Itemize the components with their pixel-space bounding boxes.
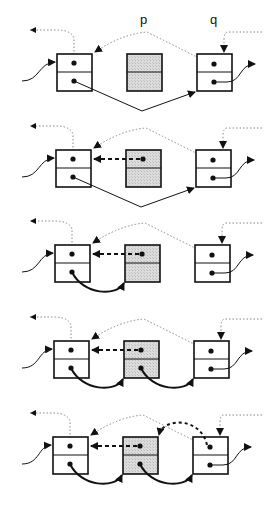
linked-list-diagram xyxy=(0,0,274,512)
node-right-q xyxy=(193,437,228,474)
pointer-dot xyxy=(71,60,76,65)
incoming-link xyxy=(22,158,54,177)
arrowhead-icon xyxy=(30,27,36,33)
right-prev-link xyxy=(220,415,262,435)
node-left xyxy=(55,245,90,282)
right-prev-link xyxy=(221,319,262,339)
arrowhead-icon xyxy=(30,218,36,224)
step-5 xyxy=(22,410,262,484)
pointer-dot xyxy=(69,251,74,256)
node-left xyxy=(57,54,92,91)
incoming-link xyxy=(22,445,51,464)
step-2 xyxy=(22,123,262,207)
node-left xyxy=(56,150,91,187)
pointer-dot xyxy=(210,157,215,162)
node-right-q xyxy=(194,341,229,378)
right-prev-link xyxy=(223,128,262,148)
arrowhead-icon xyxy=(30,123,36,129)
right-prev-link xyxy=(222,223,262,243)
node-left xyxy=(53,437,88,474)
node-new-p xyxy=(125,245,160,282)
pointer-dot xyxy=(68,347,73,352)
node-right-q xyxy=(197,54,232,91)
pointer-dot xyxy=(208,348,213,353)
node-new-p xyxy=(126,150,161,187)
pointer-dot xyxy=(139,251,144,256)
node-right-q xyxy=(196,150,231,187)
node-new-p xyxy=(127,54,162,91)
pointer-dot xyxy=(207,444,212,449)
step-3 xyxy=(22,218,262,292)
incoming-link xyxy=(22,62,55,81)
pointer-dot xyxy=(140,156,145,161)
incoming-link xyxy=(22,253,53,272)
right-prev-link xyxy=(224,32,262,52)
node-right-q xyxy=(195,245,230,282)
pointer-dot xyxy=(137,443,142,448)
node-left xyxy=(54,341,89,378)
pointer-dot xyxy=(211,61,216,66)
node-new-p xyxy=(123,437,158,474)
step-1 xyxy=(22,27,262,111)
pointer-dot xyxy=(138,347,143,352)
incoming-link xyxy=(22,349,52,368)
node-new-p xyxy=(124,341,159,378)
pointer-dot xyxy=(67,443,72,448)
step-4 xyxy=(22,314,262,388)
arrowhead-icon xyxy=(30,410,36,416)
arrowhead-icon xyxy=(30,314,36,320)
pointer-dot xyxy=(70,156,75,161)
pointer-dot xyxy=(209,252,214,257)
